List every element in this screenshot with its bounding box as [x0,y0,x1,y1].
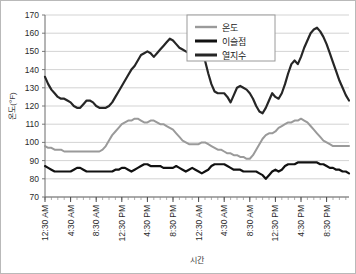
chart-container: 70809010011012013014015016017012:30 AM4:… [0,0,356,274]
xtick-label-5: 8:30 PM [168,205,178,237]
xtick-label-0: 12:30 AM [40,205,50,241]
chart-svg: 70809010011012013014015016017012:30 AM4:… [1,1,356,274]
xtick-label-9: 12:30 PM [270,205,280,241]
chart-legend: 온도이슬점열지수 [187,15,275,61]
ytick-label-110: 110 [25,119,39,129]
ytick-label-150: 150 [25,46,39,56]
ytick-label-170: 170 [25,10,39,20]
x-axis-title: 시간 [190,255,205,265]
ytick-label-140: 140 [25,65,39,75]
y-axis-title: 온도(°F) [8,92,17,120]
xtick-label-11: 8:30 PM [322,205,332,237]
xtick-label-8: 8:30 AM [245,205,255,236]
ytick-label-90: 90 [30,156,40,166]
xtick-label-4: 4:30 PM [142,205,152,237]
xtick-label-3: 12:30 PM [117,205,127,241]
xtick-label-2: 8:30 AM [91,205,101,236]
legend-label-0: 온도 [222,23,238,33]
legend-label-1: 이슬점 [222,36,246,47]
ytick-label-70: 70 [30,192,40,202]
ytick-label-120: 120 [25,101,39,111]
xtick-label-6: 12:30 AM [194,205,204,241]
ytick-label-80: 80 [30,174,40,184]
ytick-label-100: 100 [25,137,39,147]
ytick-label-130: 130 [25,83,39,93]
xtick-label-7: 4:30 AM [219,205,229,236]
xtick-label-1: 4:30 AM [66,205,76,236]
legend-label-2: 열지수 [222,51,246,61]
xtick-label-10: 4:30 PM [296,205,306,237]
ytick-label-160: 160 [25,28,39,38]
